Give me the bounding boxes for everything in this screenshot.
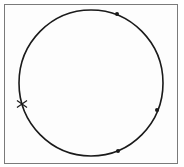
point-dot-2 xyxy=(155,108,159,112)
point-dot-1 xyxy=(115,12,119,16)
point-dot-3 xyxy=(116,149,120,153)
circle xyxy=(19,10,163,156)
point-markers xyxy=(115,12,159,153)
circle-diagram xyxy=(0,0,184,167)
